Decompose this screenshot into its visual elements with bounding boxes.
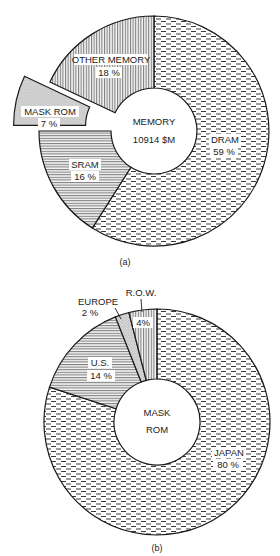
label-sram-name: SRAM	[71, 159, 99, 170]
center-label-line1: MEMORY	[133, 116, 176, 127]
label-dram-pct: 59 %	[213, 146, 235, 157]
label-dram-name: DRAM	[211, 134, 239, 145]
label-row-pct: 4%	[136, 317, 150, 328]
center-label-line1: MASK	[144, 407, 172, 418]
label-japan-pct: 80 %	[217, 459, 239, 470]
center-label-line2: 10914 $M	[133, 134, 175, 145]
label-europe-name: EUROPE	[78, 296, 118, 307]
chart-b: MASK ROM EUROPE 2 % R.O.W. 4% U.S. 14 % …	[44, 287, 270, 553]
center-label-line2: ROM	[146, 424, 168, 435]
caption-a: (a)	[120, 257, 131, 267]
label-us-name: U.S.	[91, 357, 109, 368]
figure: MEMORY 10914 $M OTHER MEMORY 18 % MASK R…	[0, 0, 280, 556]
label-maskrom-pct: 7 %	[41, 118, 58, 129]
label-europe-pct: 2 %	[82, 307, 99, 318]
label-japan-name: JAPAN	[214, 447, 244, 458]
label-maskrom-name: MASK ROM	[24, 106, 76, 117]
label-other-memory-name: OTHER MEMORY	[72, 54, 151, 65]
label-row-name: R.O.W.	[126, 287, 157, 298]
label-other-memory-pct: 18 %	[98, 67, 120, 78]
label-sram-pct: 16 %	[74, 171, 96, 182]
label-us-pct: 14 %	[90, 370, 112, 381]
chart-a: MEMORY 10914 $M OTHER MEMORY 18 % MASK R…	[14, 16, 269, 267]
caption-b: (b)	[152, 543, 163, 553]
